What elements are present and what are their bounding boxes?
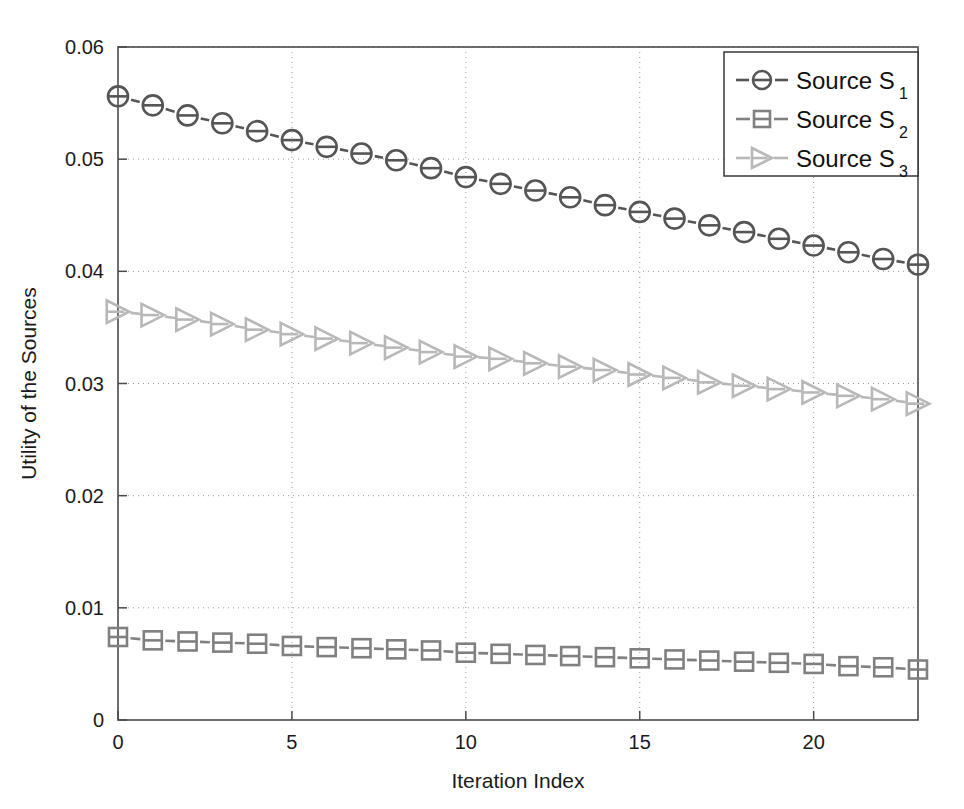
series-line-segment [723,228,731,230]
series-line-segment [826,665,836,666]
y-tick-label: 0 [93,709,104,731]
x-tick-label: 5 [286,731,297,753]
series-line-segment [443,354,453,355]
chart-legend: Source S1Source S2Source S3 [724,52,918,180]
y-tick-label: 0.04 [65,260,104,282]
series-line-segment [617,372,627,373]
series-line-segment [722,384,732,385]
x-axis-title: Iteration Index [451,769,585,792]
series-line-segment [479,180,487,182]
series-line-segment [444,651,454,652]
series-line-segment [270,134,279,136]
series-line-segment [583,200,591,202]
series-line-segment [688,221,696,223]
series-line-segment [130,638,140,639]
series-line-segment [757,235,765,237]
series-line-segment [130,313,140,314]
series-line-segment [236,126,244,128]
series-line-segment [897,261,905,262]
y-axis-title: Utility of the Sources [17,287,40,480]
series-line-segment [827,248,835,250]
series-line-segment [514,186,522,188]
y-tick-label: 0.01 [65,597,104,619]
series-line-segment [304,336,314,337]
y-tick-label: 0.03 [65,373,104,395]
series-line-segment [374,345,384,346]
series-line-segment [757,387,767,388]
series-2 [109,628,927,679]
y-tick-label: 0.02 [65,485,104,507]
legend-label-subscript: 1 [899,85,908,102]
series-line-segment [861,397,871,398]
chart-figure: 00.010.020.030.040.050.0605101520 Iterat… [0,0,964,809]
series-line-segment [131,100,140,102]
series-line-segment [200,321,210,322]
series-line-segment [305,143,313,145]
series-line-segment [549,193,557,195]
series-line-segment [826,394,836,395]
series-line-segment [652,376,662,377]
series-line-segment [270,645,280,646]
series-line-segment [653,214,661,216]
series-line-segment [201,118,209,120]
series-line-segment [862,255,870,257]
series-line-segment [896,668,906,669]
series-line-segment [166,109,175,112]
series-line-segment [409,349,419,350]
series-line-segment [340,149,348,151]
series-line-segment [165,317,175,318]
legend-label: Source S [796,106,895,133]
series-line-segment [339,340,349,341]
y-tick-label: 0.05 [65,148,104,170]
series-line-segment [548,365,558,366]
x-tick-label: 10 [455,731,477,753]
legend-label-subscript: 2 [899,124,908,141]
series-line-segment [618,208,626,210]
x-tick-label: 15 [629,731,651,753]
series-line-segment [235,326,245,328]
series-line-segment [409,163,417,165]
series-line-segment [375,156,383,158]
legend-label: Source S [796,145,895,172]
y-tick-label: 0.06 [65,36,104,58]
legend-label: Source S [796,67,895,94]
series-line-segment [687,379,697,380]
x-tick-label: 0 [112,731,123,753]
series-line-segment [792,241,800,243]
series-line-segment [513,360,523,361]
series-line-segment [896,401,906,402]
series-line-segment [444,172,453,174]
series-line-segment [583,368,593,369]
series-3 [107,300,930,414]
series-line-segment [270,331,280,332]
series-line-segment [791,390,801,391]
x-tick-label: 20 [803,731,825,753]
plot-canvas: 00.010.020.030.040.050.0605101520 Iterat… [0,0,964,809]
legend-label-subscript: 3 [899,163,908,180]
series-line-segment [478,357,488,358]
